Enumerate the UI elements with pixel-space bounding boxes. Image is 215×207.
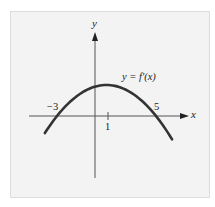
x-axis-arrow-icon — [180, 113, 189, 119]
tick-label-5: 5 — [154, 102, 159, 113]
plot-area — [0, 0, 215, 207]
y-axis-arrow-icon — [92, 32, 98, 41]
curve-label: y = f′(x) — [122, 72, 156, 83]
curve-label-prefix: y = — [122, 71, 139, 82]
tick-label-1: 1 — [105, 122, 110, 133]
x-axis-label: x — [191, 109, 196, 120]
tick-label-neg3: −3 — [47, 102, 58, 113]
curve-label-func: f′(x) — [139, 71, 156, 82]
y-axis-label: y — [92, 18, 97, 29]
